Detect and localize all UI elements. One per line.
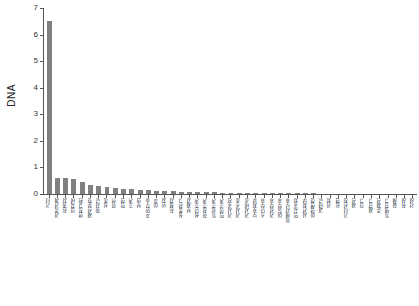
bar-slot — [318, 8, 326, 194]
bar — [55, 178, 60, 194]
x-axis-label: 실종선고 — [179, 198, 185, 218]
bar-slot — [326, 8, 334, 194]
x-axis-label: 양육비 — [71, 198, 77, 213]
x-axis-label-slot: 감치 — [326, 198, 334, 298]
x-axis-label-slot: 위자료 — [95, 198, 103, 298]
x-axis-label: 감치 — [327, 198, 333, 208]
x-axis-label-slot: 유언 — [111, 198, 119, 298]
x-axis-label: 항고 — [360, 198, 366, 208]
x-axis-label-slot: 임시조치 — [293, 198, 301, 298]
x-axis-label-slot: 기타 — [45, 198, 53, 298]
x-axis-label-slot: 피해자보호 — [285, 198, 293, 298]
bar — [105, 187, 110, 194]
x-axis-label: 임의후견 — [220, 198, 226, 218]
x-axis-label-slot: 상속 — [103, 198, 111, 298]
bar-slot — [392, 8, 400, 194]
bar-slot — [53, 8, 61, 194]
x-axis-label: 취하 — [402, 198, 408, 208]
x-axis-label: 부재자 — [187, 198, 193, 213]
x-axis-label: 친생자 — [170, 198, 176, 213]
bar-slot — [334, 8, 342, 194]
x-axis-label-slot: 한정후견 — [202, 198, 210, 298]
bar-series — [45, 8, 417, 194]
bar-slot — [367, 8, 375, 194]
x-axis-label: 사전처분 — [303, 198, 309, 218]
x-axis-label: 피해자보호 — [286, 198, 292, 223]
x-axis-label-slot: 각하 — [409, 198, 417, 298]
bar-slot — [45, 8, 53, 194]
y-axis-tick-label: 3 — [34, 110, 38, 118]
x-axis-label-slot: 항고 — [359, 198, 367, 298]
x-axis-labels: 기타가족관계친권자양육비면접교섭재산분할위자료상속유언입양후견부양혼인무효이혼인… — [45, 198, 417, 298]
bar-slot — [95, 8, 103, 194]
x-axis-label: 가사소송 — [236, 198, 242, 218]
x-axis-label-slot: 아동보호 — [276, 198, 284, 298]
bar-slot — [268, 8, 276, 194]
x-axis-label-slot: 가족관계 — [53, 198, 61, 298]
bar-slot — [62, 8, 70, 194]
bar-slot — [186, 8, 194, 194]
x-axis-label-slot: 양육비 — [70, 198, 78, 298]
bar-slot — [409, 8, 417, 194]
y-axis-tick — [40, 88, 44, 89]
bar-slot — [161, 8, 169, 194]
bar-slot — [235, 8, 243, 194]
bar-slot — [219, 8, 227, 194]
x-axis-label: 성년후견 — [195, 198, 201, 218]
bar — [88, 185, 93, 194]
x-axis-label: 각하 — [410, 198, 416, 208]
x-axis-label: 후견 — [129, 198, 135, 208]
x-axis-label-slot: 임의후견 — [219, 198, 227, 298]
bar — [80, 182, 85, 194]
x-axis-label: 준재심 — [377, 198, 383, 213]
x-axis-label-slot: 과태료 — [318, 198, 326, 298]
x-axis-label: 집행 — [336, 198, 342, 208]
x-axis-label: 화해 — [393, 198, 399, 208]
bar-slot — [276, 8, 284, 194]
x-axis-label: 유언 — [112, 198, 118, 208]
x-axis-label: 가사조정 — [228, 198, 234, 218]
x-axis-label-slot: 면접교섭 — [78, 198, 86, 298]
x-axis-label-slot: 기타신청 — [343, 198, 351, 298]
x-axis-label: 재심 — [352, 198, 358, 208]
y-axis-tick — [40, 114, 44, 115]
bar-slot — [111, 8, 119, 194]
plot-area — [45, 8, 417, 194]
bar-slot — [384, 8, 392, 194]
x-axis-label-slot: 재항고 — [367, 198, 375, 298]
bar — [47, 21, 52, 194]
x-axis-label: 임시조치 — [294, 198, 300, 218]
y-axis-tick-label: 2 — [34, 137, 38, 145]
bar-slot — [128, 8, 136, 194]
y-axis-tick-label: 1 — [34, 163, 38, 171]
x-axis-label: 기타신청 — [344, 198, 350, 218]
y-axis-tick-label: 0 — [34, 190, 38, 198]
x-axis-label: 기타 — [46, 198, 52, 208]
x-axis-label-slot: 이행명령 — [310, 198, 318, 298]
bar-slot — [103, 8, 111, 194]
bar-slot — [210, 8, 218, 194]
x-axis-label-slot: 가사소송 — [235, 198, 243, 298]
y-axis-tick-label: 5 — [34, 57, 38, 65]
x-axis-label: 이혼 — [154, 198, 160, 208]
y-axis-tick — [40, 35, 44, 36]
x-axis-label-slot: 특정후견 — [210, 198, 218, 298]
bar-slot — [194, 8, 202, 194]
x-axis-label: 아동보호 — [278, 198, 284, 218]
bar-slot — [119, 8, 127, 194]
bar-slot — [260, 8, 268, 194]
x-axis-label: 입양 — [121, 198, 127, 208]
x-axis-label: 상속 — [104, 198, 110, 208]
x-axis-label-slot: 준재심 — [376, 198, 384, 298]
y-axis-tick — [40, 61, 44, 62]
bar-slot — [351, 8, 359, 194]
x-axis-label-slot: 친생자 — [169, 198, 177, 298]
x-axis-label: 이행명령 — [311, 198, 317, 218]
bar-slot — [285, 8, 293, 194]
x-axis-label: 친권자 — [63, 198, 69, 213]
bar-slot — [144, 8, 152, 194]
x-axis-label-slot: 부양 — [136, 198, 144, 298]
x-axis-label-slot: 취하 — [400, 198, 408, 298]
x-axis-label: 가정보호 — [270, 198, 276, 218]
bar-slot — [400, 8, 408, 194]
